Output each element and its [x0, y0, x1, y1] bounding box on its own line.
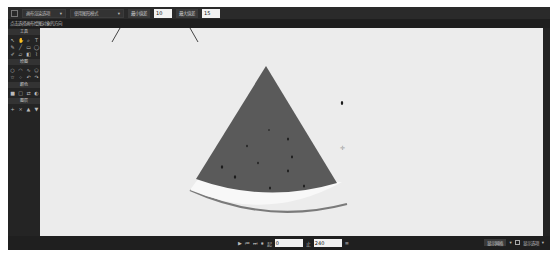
end-frame-input[interactable]: 240	[314, 239, 342, 247]
fill-icon[interactable]: ◧	[25, 51, 32, 57]
grid-button[interactable]: 显示网格	[484, 239, 506, 246]
spray-icon[interactable]: ⁘	[17, 74, 24, 80]
snap-checkbox[interactable]	[515, 240, 520, 245]
render-options-dropdown[interactable]: 画布渲染选项 ▾	[22, 9, 66, 18]
watermelon-flesh	[196, 66, 337, 193]
end-label: 止	[306, 240, 311, 247]
add-layer-icon[interactable]: +	[9, 106, 16, 112]
redo-icon[interactable]: ↷	[33, 74, 40, 80]
chevron-down-icon[interactable]: ▾	[509, 240, 511, 245]
rect-icon[interactable]: ▭	[25, 44, 32, 50]
next-icon[interactable]: ⏭	[253, 240, 258, 247]
render-options-label: 画布渲染选项	[26, 10, 50, 16]
swap-icon[interactable]: ⇄	[25, 90, 32, 96]
reset-icon[interactable]: ◐	[33, 90, 40, 96]
section-layers: 图层	[8, 98, 40, 104]
mode-label: 使用图形模式	[74, 10, 98, 16]
min-value-input[interactable]: 10	[154, 9, 172, 18]
cursor-icon: ✛	[340, 144, 345, 151]
max-label: 最大值差	[176, 9, 198, 18]
settings-icon[interactable]: ≡	[345, 240, 349, 246]
mode-dropdown[interactable]: 使用图形模式 ▾	[70, 9, 124, 18]
star-icon[interactable]: ☆	[9, 74, 16, 80]
start-label: 起	[267, 240, 272, 247]
drawing-canvas[interactable]: ✛	[40, 28, 543, 236]
max-value-input[interactable]: 15	[202, 9, 220, 18]
ellipse-icon[interactable]: ◯	[33, 44, 40, 50]
tool-panel: 工具 ↖ ✋ ⌕ T ✎ ╱ ▭ ◯ ✐ ▱ ◧ ⌇ 绘图 ○ ◠ ∿ ⬠ ☆ …	[8, 28, 40, 243]
min-label: 最小值差	[128, 9, 150, 18]
section-tools: 工具	[8, 29, 40, 35]
layer-up-icon[interactable]: ▲	[25, 106, 32, 112]
app-window: 画布渲染选项 ▾ 使用图形模式 ▾ 最小值差 10 最大值差 15 点击选择画布…	[8, 7, 550, 250]
circle-icon[interactable]: ○	[9, 67, 16, 73]
display-options-dropdown[interactable]: 显示选项	[523, 240, 539, 246]
fg-color-icon[interactable]: ■	[9, 90, 16, 96]
bottom-bar: ▶ ⏮ ⏭ ⏹ 起 0 止 240 ≡ 显示网格 ▾ 显示选项 ▾	[8, 236, 550, 250]
hand-icon[interactable]: ✋	[17, 37, 24, 43]
guide-line-right	[190, 28, 198, 42]
bg-color-icon[interactable]: □	[17, 90, 24, 96]
start-frame-input[interactable]: 0	[275, 239, 303, 247]
line-icon[interactable]: ╱	[17, 44, 24, 50]
pen-icon[interactable]: ✎	[9, 44, 16, 50]
arc-icon[interactable]: ◠	[17, 67, 24, 73]
chevron-down-icon: ▾	[60, 11, 62, 16]
section-color: 颜色	[8, 82, 40, 88]
eraser-icon[interactable]: ▱	[17, 51, 24, 57]
layer-down-icon[interactable]: ▼	[33, 106, 40, 112]
brush-icon[interactable]: ✐	[9, 51, 16, 57]
zoom-icon[interactable]: ⌕	[25, 37, 32, 43]
eyedrop-icon[interactable]: ⌇	[33, 51, 40, 57]
delete-layer-icon[interactable]: ×	[17, 106, 24, 112]
app-menu-icon[interactable]	[11, 10, 18, 17]
chevron-down-icon[interactable]: ▾	[542, 240, 544, 245]
chevron-down-icon: ▾	[118, 11, 120, 16]
section-draw: 绘图	[8, 59, 40, 65]
end-icon[interactable]: ⏹	[261, 240, 264, 247]
hint-text: 点击选择画布绘图对象的方向	[8, 19, 550, 28]
polygon-icon[interactable]: ⬠	[33, 67, 40, 73]
canvas-drawing: ✛	[40, 28, 543, 236]
guide-line-left	[112, 28, 120, 42]
text-icon[interactable]: T	[33, 37, 40, 43]
curve-icon[interactable]: ∿	[25, 67, 32, 73]
prev-icon[interactable]: ⏮	[245, 240, 250, 247]
play-icon[interactable]: ▶	[238, 240, 242, 246]
arrow-icon[interactable]: ↖	[9, 37, 16, 43]
undo-icon[interactable]: ↶	[25, 74, 32, 80]
top-toolbar: 画布渲染选项 ▾ 使用图形模式 ▾ 最小值差 10 最大值差 15	[8, 7, 550, 19]
